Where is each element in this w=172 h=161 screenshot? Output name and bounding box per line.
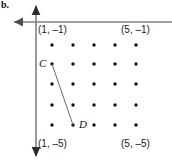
lattice-dot <box>113 103 116 106</box>
coordinate-grid-figure: b. (1, –1) (5, –1) (1, –5) (5, –5) C D <box>0 0 172 161</box>
lattice-dot <box>113 62 116 65</box>
lattice-dot <box>134 103 137 106</box>
point-label-d: D <box>79 118 87 130</box>
lattice-dot <box>134 82 137 85</box>
lattice-dot <box>113 123 116 126</box>
lattice-dot <box>92 43 95 46</box>
lattice-dots <box>50 43 137 126</box>
lattice-dot <box>134 43 137 46</box>
point-label-c: C <box>39 57 46 69</box>
segment-cd <box>52 64 73 125</box>
lattice-dot <box>92 62 95 65</box>
lattice-dot <box>92 123 95 126</box>
lattice-dot <box>71 62 74 65</box>
lattice-dot <box>50 43 53 46</box>
lattice-dot <box>71 103 74 106</box>
lattice-dot <box>113 82 116 85</box>
lattice-dot <box>71 43 74 46</box>
lattice-dot <box>50 82 53 85</box>
coord-label-bottom-left: (1, –5) <box>38 138 67 149</box>
lattice-dot <box>71 82 74 85</box>
coord-label-bottom-right: (5, –5) <box>121 138 150 149</box>
lattice-dot <box>92 82 95 85</box>
lattice-dot <box>50 123 53 126</box>
coord-label-top-left: (1, –1) <box>38 24 67 35</box>
lattice-dot <box>92 103 95 106</box>
lattice-dot <box>50 103 53 106</box>
lattice-dot <box>134 123 137 126</box>
coord-label-top-right: (5, –1) <box>121 24 150 35</box>
lattice-dot <box>113 43 116 46</box>
lattice-dot <box>134 62 137 65</box>
